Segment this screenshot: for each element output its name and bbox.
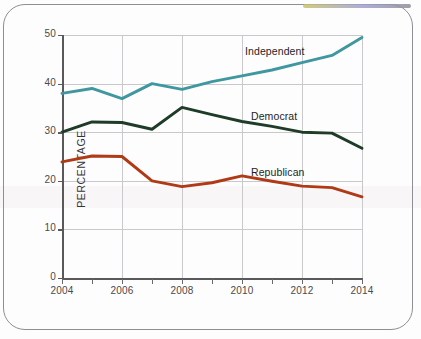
x-tick-mark: [362, 279, 363, 284]
x-tick-label: 2008: [159, 285, 205, 296]
series-label-independent: Independent: [245, 45, 305, 57]
x-tick-label: 2004: [39, 285, 85, 296]
y-tick-label: 30: [30, 125, 56, 136]
series-lines: [62, 35, 362, 278]
x-tick-mark: [242, 279, 243, 284]
y-tick-mark: [58, 181, 62, 182]
page-canvas: PERCENTAGE 01020304050 20042006200820102…: [0, 0, 421, 339]
y-tick-label: 0: [30, 271, 56, 282]
series-line-republican: [62, 156, 362, 197]
gridline-vertical: [362, 35, 363, 278]
series-label-democrat: Democrat: [251, 110, 297, 122]
x-tick-mark: [332, 279, 333, 284]
y-tick-mark: [58, 84, 62, 85]
x-tick-mark: [62, 279, 63, 284]
y-tick-mark: [58, 278, 62, 279]
x-tick-mark: [212, 279, 213, 284]
series-line-democrat: [62, 107, 362, 148]
x-tick-mark: [302, 279, 303, 284]
x-tick-label: 2014: [339, 285, 385, 296]
x-tick-label: 2006: [99, 285, 145, 296]
x-tick-label: 2012: [279, 285, 325, 296]
series-line-independent: [62, 37, 362, 98]
y-tick-mark: [58, 229, 62, 230]
y-tick-label: 40: [30, 77, 56, 88]
x-tick-mark: [152, 279, 153, 284]
x-tick-mark: [122, 279, 123, 284]
line-chart: PERCENTAGE 01020304050 20042006200820102…: [0, 0, 421, 339]
y-tick-mark: [58, 35, 62, 36]
y-tick-label: 50: [30, 28, 56, 39]
x-tick-label: 2010: [219, 285, 265, 296]
x-tick-mark: [182, 279, 183, 284]
y-tick-label: 20: [30, 174, 56, 185]
x-tick-mark: [92, 279, 93, 284]
series-label-republican: Republican: [251, 166, 305, 178]
y-tick-label: 10: [30, 222, 56, 233]
y-axis-ticks: 01020304050: [26, 35, 56, 278]
x-tick-mark: [272, 279, 273, 284]
y-tick-mark: [58, 132, 62, 133]
